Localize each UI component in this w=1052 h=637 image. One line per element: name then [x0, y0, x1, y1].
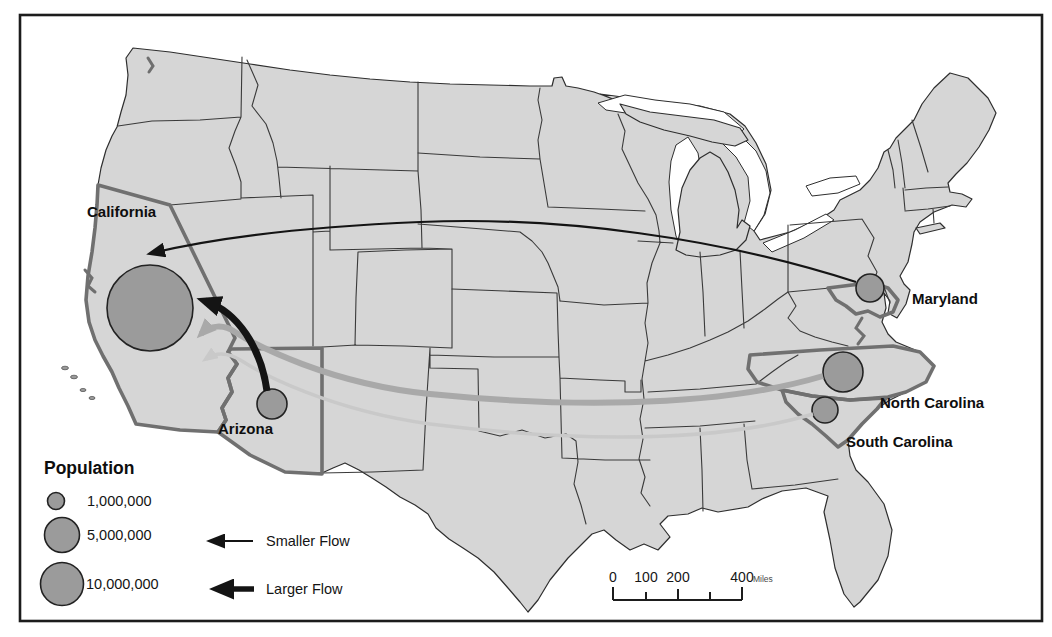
legend-title: Population	[44, 458, 134, 478]
scale-tick-400: 400	[730, 569, 754, 585]
legend-label-1m: 1,000,000	[87, 493, 152, 509]
figure: California Arizona Maryland North Caroli…	[0, 0, 1052, 637]
state-label-south-carolina: South Carolina	[846, 433, 953, 450]
scale-tick-100: 100	[634, 569, 658, 585]
legend-circle-10m	[41, 563, 84, 606]
scale-tick-0: 0	[609, 569, 617, 585]
scale-unit-label: Miles	[753, 574, 773, 584]
legend-label-5m: 5,000,000	[87, 527, 152, 543]
legend-label-smaller-flow: Smaller Flow	[266, 533, 350, 549]
legend-label-10m: 10,000,000	[86, 576, 159, 592]
population-circle-maryland	[856, 274, 884, 302]
us-flow-map: California Arizona Maryland North Caroli…	[0, 0, 1052, 637]
population-circle-north-carolina	[823, 352, 863, 392]
state-label-california: California	[87, 203, 157, 220]
state-label-arizona: Arizona	[218, 420, 274, 437]
legend-circle-5m	[45, 518, 80, 553]
legend-label-larger-flow: Larger Flow	[266, 581, 343, 597]
legend-circle-1m	[48, 493, 65, 510]
state-label-north-carolina: North Carolina	[880, 394, 985, 411]
state-label-maryland: Maryland	[912, 290, 978, 307]
scale-tick-200: 200	[666, 569, 690, 585]
population-circle-california	[107, 265, 193, 351]
population-circle-south-carolina	[812, 397, 838, 423]
population-circle-arizona	[257, 389, 287, 419]
